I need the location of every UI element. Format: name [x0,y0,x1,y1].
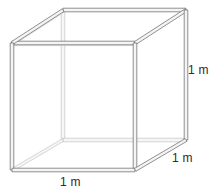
edge-bottom-front [12,168,135,172]
dimension-label-depth-edge: 1 m [172,151,193,165]
edge-top-back [63,8,186,12]
hidden-edge-bottom-back [63,138,186,142]
dimension-label-right-edge: 1 m [188,63,209,77]
edge-front-right-vertical [133,43,137,170]
edge-top-front [12,41,135,45]
edge-front-left-vertical [10,43,14,170]
hidden-edge-back-left-vertical [61,10,65,140]
hidden-edge-bottom-left-depth [12,138,63,171]
edge-top-right-depth [134,9,187,45]
visible-edges-group [10,8,188,172]
cube-diagram: 1 m 1 m 1 m [0,0,217,192]
hidden-edges-group [12,10,186,172]
dimension-label-bottom-edge: 1 m [60,175,81,189]
edge-top-left-depth [11,9,64,45]
